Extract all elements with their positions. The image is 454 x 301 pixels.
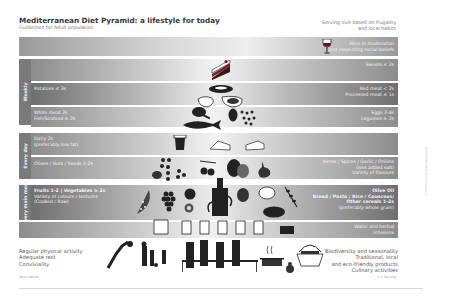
watermelon-icon bbox=[133, 188, 153, 216]
yogurt-icon bbox=[173, 135, 187, 151]
apple-icon bbox=[184, 188, 196, 200]
serving-legend: s = Serving bbox=[378, 275, 396, 279]
serving-note: Serving size based on frugality and loca… bbox=[322, 20, 396, 32]
cake-slice-icon bbox=[210, 60, 232, 80]
bird-icon bbox=[285, 262, 295, 274]
olive-oil-bottle-icon bbox=[206, 178, 234, 218]
sausage-icon bbox=[208, 84, 234, 94]
page-title: Mediterranean Diet Pyramid: a lifestyle … bbox=[19, 16, 220, 25]
conviviality-table-icon bbox=[182, 238, 260, 274]
cheese-block-icon bbox=[244, 139, 266, 151]
chicken-leg-icon bbox=[192, 106, 212, 120]
physical-activity-icon bbox=[104, 240, 174, 270]
legumes-icon bbox=[240, 110, 260, 126]
egg-icon bbox=[228, 108, 238, 122]
water-glasses-icon bbox=[152, 218, 302, 236]
cooking-pot-icon bbox=[260, 246, 284, 268]
bread-icon bbox=[262, 206, 286, 218]
onion-garlic-icon bbox=[226, 155, 276, 179]
grapes-icon bbox=[160, 186, 178, 212]
cabbage-icon bbox=[258, 186, 276, 200]
produce-basket-icon bbox=[295, 244, 325, 268]
page-subtitle: Guidelines for Adult population bbox=[19, 25, 93, 30]
wheat-icon bbox=[284, 186, 298, 208]
lifestyle-notes-right: Biodiversity and seasonality Traditional… bbox=[325, 248, 398, 274]
fish-icon bbox=[181, 120, 223, 130]
lifestyle-notes-left: Regular physical activity Adequate rest … bbox=[19, 248, 83, 267]
cheese-icon bbox=[208, 139, 232, 151]
side-label-weekly: Weekly bbox=[19, 59, 31, 125]
olives-icon bbox=[198, 159, 218, 177]
artichoke-icon bbox=[236, 186, 250, 202]
edition-label: 2010 edition bbox=[19, 275, 39, 279]
side-label-every-day: Every day bbox=[19, 133, 31, 179]
tier-wine: Wine in moderation and respecting social… bbox=[19, 37, 398, 56]
kiwi-icon bbox=[184, 203, 194, 213]
copyright-note: © 2010 Fundación Dieta Mediterránea bbox=[425, 150, 428, 240]
nuts-berries-icon bbox=[152, 157, 194, 181]
footer-divider bbox=[19, 288, 423, 289]
side-label-every-main-meal: Every main meal bbox=[19, 185, 31, 220]
